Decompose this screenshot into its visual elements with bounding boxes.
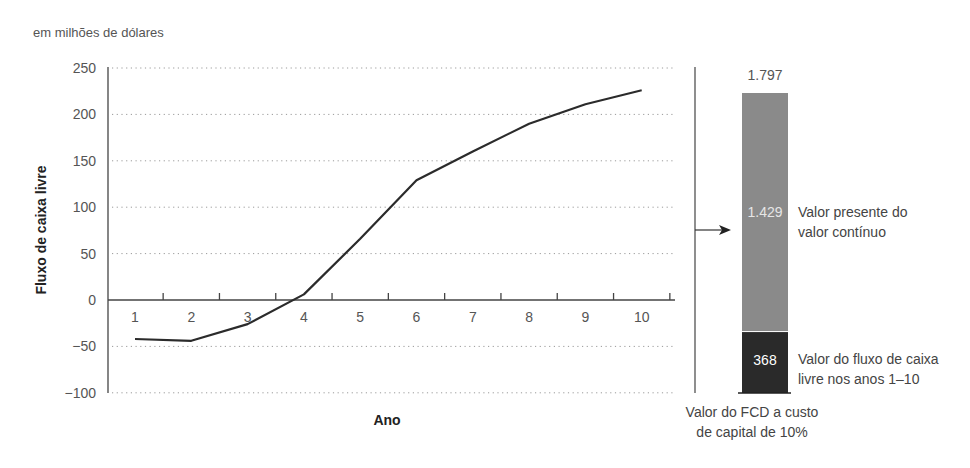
x-axis-title: Ano xyxy=(373,412,400,428)
bar-title-line2: de capital de 10% xyxy=(696,424,807,440)
continuing-value-annotation-line1: Valor presente do xyxy=(798,204,908,220)
x-tick-label: 2 xyxy=(187,309,195,325)
x-tick-label: 1 xyxy=(131,309,139,325)
bar-title-line1: Valor do FCD a custo xyxy=(686,404,819,420)
x-tick-label: 9 xyxy=(582,309,590,325)
gridlines xyxy=(112,68,675,393)
y-tick-labels: 250200150100500−50−100 xyxy=(64,60,96,401)
dcf-chart: em milhões de dólares 250200150100500−50… xyxy=(0,0,970,468)
x-tick-label: 10 xyxy=(634,309,650,325)
y-tick-label: −50 xyxy=(72,338,96,354)
x-tick-label: 6 xyxy=(413,309,421,325)
x-axis: 12345678910 xyxy=(108,293,675,325)
y-tick-label: 50 xyxy=(80,246,96,262)
x-tick-label: 4 xyxy=(300,309,308,325)
bar-continuing-value-label: 1.429 xyxy=(747,204,782,220)
x-tick-label: 7 xyxy=(469,309,477,325)
bar-fcf-value-label: 368 xyxy=(753,352,777,368)
y-tick-label: 200 xyxy=(73,106,97,122)
dcf-stacked-bar: 1.797 1.429 368 Valor presente do valor … xyxy=(686,67,939,440)
fcf-annotation-line1: Valor do fluxo de caixa xyxy=(798,351,939,367)
unit-note: em milhões de dólares xyxy=(33,25,164,40)
fcf-annotation-line2: livre nos anos 1–10 xyxy=(798,371,920,387)
x-tick-label: 8 xyxy=(525,309,533,325)
continuing-value-annotation-line2: valor contínuo xyxy=(798,224,886,240)
x-tick-label: 5 xyxy=(356,309,364,325)
y-tick-label: 100 xyxy=(73,199,97,215)
y-tick-label: 0 xyxy=(88,292,96,308)
y-tick-label: −100 xyxy=(64,385,96,401)
y-tick-label: 250 xyxy=(73,60,97,76)
y-tick-label: 150 xyxy=(73,153,97,169)
fcf-line-series xyxy=(135,90,642,340)
y-axis-title: Fluxo de caixa livre xyxy=(33,165,49,294)
bar-total-label: 1.797 xyxy=(747,67,782,83)
